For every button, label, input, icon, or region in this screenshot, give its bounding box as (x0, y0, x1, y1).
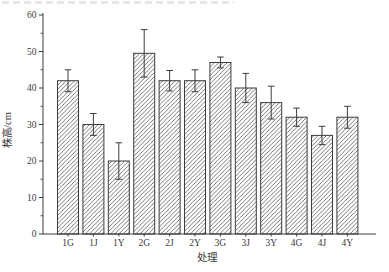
bar-3G (210, 63, 231, 235)
bar-4G (286, 117, 307, 234)
bar-1J (83, 125, 104, 235)
x-tick-label-1J: 1J (89, 238, 98, 248)
bar-3J (235, 88, 256, 234)
x-tick-label-2J: 2J (165, 238, 174, 248)
y-tick-label-20: 20 (27, 156, 37, 166)
y-tick-label-10: 10 (27, 193, 37, 203)
x-tick-label-3Y: 3Y (265, 238, 277, 248)
bar-4J (312, 135, 333, 234)
y-tick-label-60: 60 (27, 10, 37, 20)
bar-1G (58, 81, 79, 234)
bar-chart: 1G1J1Y2G2J2Y3G3J3Y4G4J4Y0102030405060 处理… (0, 0, 389, 272)
error-bars-group (65, 30, 351, 180)
bar-2G (134, 53, 155, 234)
x-tick-label-4G: 4G (291, 238, 303, 248)
bars-group (58, 53, 358, 234)
x-tick-label-4J: 4J (318, 238, 327, 248)
x-tick-label-2Y: 2Y (189, 238, 201, 248)
bar-4Y (337, 117, 358, 234)
x-tick-label-3J: 3J (242, 238, 251, 248)
x-tick-label-2G: 2G (138, 238, 150, 248)
bar-2Y (185, 81, 206, 234)
x-tick-label-1Y: 1Y (113, 238, 125, 248)
y-axis-title: 株高/cm (1, 112, 13, 148)
x-tick-label-4Y: 4Y (342, 238, 354, 248)
x-axis-title: 处理 (197, 252, 218, 263)
y-tick-label-30: 30 (27, 120, 37, 130)
y-tick-label-0: 0 (32, 229, 37, 239)
y-tick-label-50: 50 (27, 47, 37, 57)
bar-2J (159, 81, 180, 234)
bar-3Y (261, 103, 282, 234)
x-tick-label-3G: 3G (215, 238, 227, 248)
y-tick-label-40: 40 (27, 83, 37, 93)
figure-page: 1G1J1Y2G2J2Y3G3J3Y4G4J4Y0102030405060 处理… (0, 0, 389, 272)
x-tick-label-1G: 1G (62, 238, 74, 248)
